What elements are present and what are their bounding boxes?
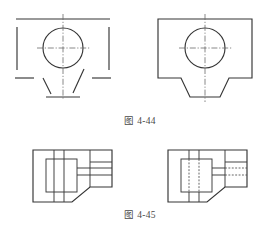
fig-4-45-left-view bbox=[28, 145, 120, 207]
figure-4-44: 图 4-44 bbox=[0, 0, 280, 135]
figure-4-45-caption: 图 4-45 bbox=[0, 207, 280, 221]
right-slanted-segment bbox=[73, 69, 84, 93]
drawing-sheet: 图 4-44 bbox=[0, 0, 280, 225]
outer-outline bbox=[168, 150, 247, 202]
outer-outline bbox=[33, 150, 112, 202]
left-slanted-segment bbox=[43, 78, 51, 94]
central-boss-rectangle bbox=[181, 159, 212, 192]
fig-4-44-right-view bbox=[152, 12, 270, 104]
central-boss-rectangle bbox=[46, 159, 77, 192]
fig-4-45-right-view bbox=[163, 145, 255, 207]
figure-4-45: 图 4-45 bbox=[0, 135, 280, 225]
fig-4-44-left-view bbox=[10, 12, 128, 104]
figure-4-44-caption: 图 4-44 bbox=[0, 113, 280, 127]
